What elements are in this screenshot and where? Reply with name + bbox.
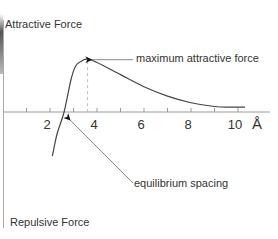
repulsive-force-label: Repulsive Force	[10, 216, 89, 228]
maximum-attractive-force-label: maximum attractive force	[136, 52, 259, 64]
equilibrium-arrow	[70, 120, 133, 183]
x-axis-ticks	[27, 108, 239, 112]
y-axis-shade	[0, 14, 3, 74]
x-axis-tick-labels: 246810	[43, 117, 242, 132]
attractive-force-label: Attractive Force	[5, 18, 82, 30]
equilibrium-spacing-label: equilibrium spacing	[134, 177, 228, 189]
force-curve	[52, 59, 245, 156]
x-tick-label: 6	[137, 117, 144, 132]
x-tick-label: 10	[228, 117, 242, 132]
x-tick-label: 8	[184, 117, 191, 132]
force-diagram: 246810 Å Attractive Force Repulsive Forc…	[0, 0, 278, 239]
x-axis-unit-label: Å	[252, 115, 262, 132]
x-tick-label: 2	[43, 117, 50, 132]
x-tick-label: 4	[90, 117, 97, 132]
